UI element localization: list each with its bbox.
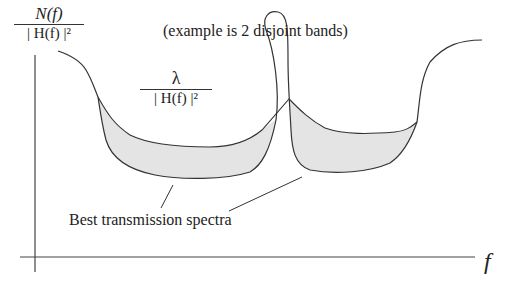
- callout-leader-2: [229, 177, 302, 211]
- transmission-band-2: [290, 99, 417, 172]
- water-filling-diagram: N(f) | H(f) |² λ | H(f) |² (example is 2…: [0, 0, 510, 285]
- y-axis-label: N(f) | H(f) |²: [14, 4, 84, 42]
- water-level-label: λ | H(f) |²: [140, 68, 212, 107]
- transmission-band-1: [98, 97, 279, 178]
- water-level-label-denominator: | H(f) |²: [140, 89, 212, 107]
- x-axis-label: f: [484, 248, 491, 275]
- y-axis-label-denominator: | H(f) |²: [14, 24, 84, 42]
- annotation-text: (example is 2 disjoint bands): [163, 22, 348, 40]
- callout-text: Best transmission spectra: [69, 211, 232, 229]
- callout-leader-1: [161, 185, 173, 208]
- water-level-label-numerator: λ: [140, 68, 212, 89]
- y-axis-label-numerator: N(f): [14, 4, 84, 24]
